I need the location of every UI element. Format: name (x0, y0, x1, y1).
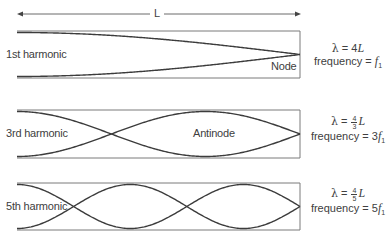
wavelength-eq-3rd: λ = 43L (308, 115, 388, 130)
harmonic-label-5th: 5th harmonic (6, 200, 67, 212)
formula-5th: λ = 45L frequency = 5f1 (308, 187, 388, 219)
length-label: L (154, 7, 160, 19)
fraction-4-3: 43 (351, 115, 357, 130)
antinode-label: Antinode (193, 127, 235, 139)
harmonic-label-3rd: 3rd harmonic (6, 127, 68, 139)
fraction-4-5: 45 (351, 187, 357, 202)
frequency-eq-1st: frequency = f1 (308, 55, 388, 72)
frequency-eq-5th: frequency = 5f1 (308, 202, 388, 219)
wavelength-eq-5th: λ = 45L (308, 187, 388, 202)
node-label: Node (271, 60, 297, 72)
formula-1st: λ = 4L frequency = f1 (308, 42, 388, 72)
arrow-left-head-icon (17, 12, 23, 17)
frequency-eq-3rd: frequency = 3f1 (308, 130, 388, 147)
formula-3rd: λ = 43L frequency = 3f1 (308, 115, 388, 147)
arrow-right-head-icon (295, 12, 301, 17)
harmonic-label-1st: 1st harmonic (6, 48, 67, 60)
